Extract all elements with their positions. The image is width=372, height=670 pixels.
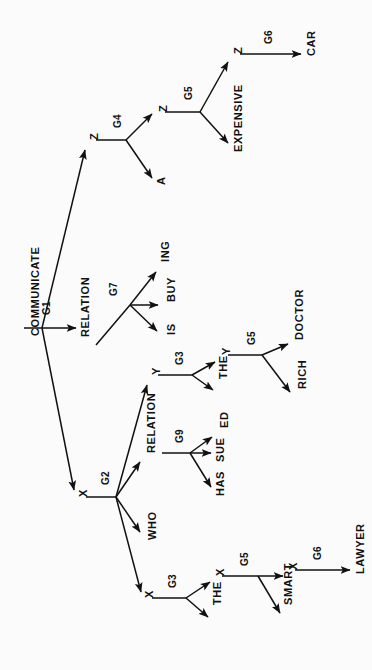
edge-label-g3-x: G3 bbox=[168, 574, 178, 588]
node-label-relation-2: RELATION bbox=[146, 393, 157, 453]
edge-label-g6-lawyer: G6 bbox=[313, 546, 323, 560]
node-label-y-node: Y bbox=[221, 347, 232, 355]
edge-g5x-to-smart bbox=[258, 576, 280, 613]
edge-label-g6-car: G6 bbox=[264, 30, 274, 44]
edge-label-g5-y: G5 bbox=[247, 331, 257, 345]
edge-g4-to-z bbox=[126, 114, 152, 140]
edge-group-g7 bbox=[96, 272, 158, 345]
edge-label-g7: G7 bbox=[109, 282, 119, 296]
node-label-is: IS bbox=[166, 323, 177, 335]
edge-g3y-to-the bbox=[192, 375, 213, 390]
node-label-z-top: Z bbox=[89, 133, 100, 140]
node-label-sue: SUE bbox=[215, 438, 226, 462]
node-label-has: HAS bbox=[215, 471, 226, 496]
edge-g4-to-a bbox=[126, 140, 152, 178]
edge-g2-to-relation bbox=[116, 462, 140, 497]
node-label-rich: RICH bbox=[297, 360, 308, 389]
edge-group-g4 bbox=[96, 114, 152, 178]
node-label-z-mid: Z bbox=[158, 105, 169, 112]
edge-g7-to-is bbox=[130, 305, 157, 331]
edge-group-g5-y bbox=[228, 344, 290, 392]
edge-label-g3-y: G3 bbox=[175, 351, 185, 365]
edge-group-g3-x bbox=[152, 582, 210, 617]
node-label-who: WHO bbox=[147, 511, 158, 540]
edge-label-g1: G1 bbox=[42, 301, 52, 315]
edge-label-g5-top: G5 bbox=[184, 86, 194, 100]
node-label-x-main: X bbox=[78, 489, 89, 497]
node-label-x-branch: X bbox=[144, 590, 155, 598]
edge-g5-to-z2 bbox=[200, 62, 228, 112]
node-label-x-node: X bbox=[215, 568, 226, 576]
edge-g5-to-expensive bbox=[200, 112, 228, 143]
node-label-y-branch: Y bbox=[151, 367, 162, 375]
diagram-canvas: COMMUNICATE RELATION IS BUY ING Z A Z EX… bbox=[0, 0, 372, 670]
edge-group-g5-x bbox=[222, 576, 283, 613]
edge-label-g5-x: G5 bbox=[240, 552, 250, 566]
node-label-z-leaf: Z bbox=[233, 47, 244, 54]
edge-g9-to-ed bbox=[190, 437, 212, 453]
edge-g2-to-y bbox=[116, 385, 147, 497]
edge-group-g2 bbox=[86, 385, 147, 592]
edge-g5y-to-rich bbox=[262, 355, 290, 392]
edge-stem-g7 bbox=[96, 305, 130, 345]
node-label-car: CAR bbox=[306, 30, 317, 56]
edge-g2-to-who bbox=[116, 497, 140, 532]
edge-group-g9 bbox=[162, 437, 212, 487]
edge-g3y-to-y bbox=[192, 362, 215, 375]
edge-g1-to-x bbox=[42, 328, 74, 490]
edge-g3x-to-x bbox=[186, 582, 210, 598]
node-label-a: A bbox=[156, 176, 167, 185]
node-label-communicate: COMMUNICATE bbox=[30, 247, 41, 337]
node-label-doctor: DOCTOR bbox=[294, 289, 305, 340]
node-label-x-leaf: X bbox=[288, 562, 299, 570]
edge-g3x-to-the bbox=[186, 598, 208, 617]
edge-g9-to-has bbox=[190, 453, 211, 487]
edge-group-g3-y bbox=[158, 362, 215, 390]
edge-label-g4: G4 bbox=[113, 114, 123, 128]
node-label-lawyer: LAWYER bbox=[355, 523, 366, 574]
node-label-the-2: THE bbox=[212, 581, 223, 605]
node-label-the-1: THE bbox=[218, 355, 229, 379]
node-label-ed: ED bbox=[219, 412, 230, 428]
edge-group-g5-top bbox=[165, 62, 228, 143]
tree-edges-svg bbox=[0, 0, 372, 670]
edge-label-g2: G2 bbox=[101, 471, 111, 485]
edge-label-g9: G9 bbox=[175, 429, 185, 443]
edge-g5y-to-doctor bbox=[262, 344, 288, 355]
edge-g7-to-ing bbox=[130, 272, 156, 305]
node-label-relation-1: RELATION bbox=[80, 277, 91, 337]
node-label-expensive: EXPENSIVE bbox=[233, 84, 244, 152]
node-label-ing: ING bbox=[160, 241, 171, 262]
node-label-buy: BUY bbox=[166, 277, 177, 302]
edge-g2-to-x bbox=[116, 497, 141, 592]
